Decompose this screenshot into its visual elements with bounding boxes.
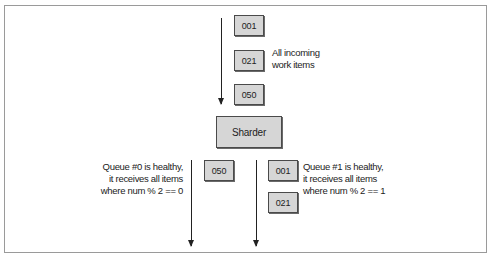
incoming-label: All incoming work items (272, 47, 320, 71)
queue-0-label-line-2: it receives all items (100, 173, 183, 185)
queue-1-arrow (256, 160, 257, 246)
incoming-item-001: 001 (234, 15, 264, 36)
queue-1-label-line-2: it receives all items (303, 173, 385, 185)
incoming-item-050: 050 (234, 84, 264, 105)
queue-0-label: Queue #0 is healthy, it receives all ite… (100, 161, 183, 197)
incoming-item-021: 021 (234, 50, 264, 71)
queue-1-label-line-1: Queue #1 is healthy, (303, 161, 385, 173)
queue-0-arrow (191, 160, 192, 246)
incoming-arrow (221, 18, 222, 104)
sharder-box: Sharder (216, 116, 282, 148)
queue-0-label-line-1: Queue #0 is healthy, (100, 161, 183, 173)
queue-1-item-001: 001 (268, 160, 298, 181)
incoming-label-line-1: All incoming (272, 47, 320, 59)
queue-0-item-050: 050 (204, 160, 234, 181)
queue-1-item-021: 021 (268, 192, 298, 213)
queue-0-label-line-3: where num % 2 == 0 (100, 185, 183, 197)
incoming-label-line-2: work items (272, 59, 320, 71)
queue-1-label-line-3: where num % 2 == 1 (303, 185, 385, 197)
queue-1-label: Queue #1 is healthy, it receives all ite… (303, 161, 385, 197)
